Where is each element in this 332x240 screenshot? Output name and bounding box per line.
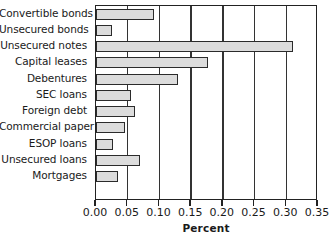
category-label: Unsecured bonds <box>0 24 87 35</box>
gridline <box>254 6 255 199</box>
bar <box>96 122 125 133</box>
category-label: Capital leases <box>0 56 87 67</box>
bar <box>96 57 208 68</box>
bar <box>96 171 118 182</box>
x-axis-tick-labels: 0.000.050.100.150.200.250.300.35 <box>0 206 332 222</box>
bar <box>96 106 135 117</box>
bar <box>96 25 112 36</box>
bar <box>96 90 131 101</box>
category-label: Foreign debt <box>0 105 87 116</box>
category-label: Mortgages <box>0 170 87 181</box>
category-label: Convertible bonds <box>0 8 87 19</box>
plot-area <box>95 5 317 200</box>
bar-chart: Convertible bondsUnsecured bondsUnsecure… <box>0 0 332 240</box>
category-label: Commercial paper <box>0 121 87 132</box>
bar <box>96 139 113 150</box>
gridline <box>190 6 191 199</box>
gridline <box>222 6 223 199</box>
category-label: ESOP loans <box>0 138 87 149</box>
category-axis-labels: Convertible bondsUnsecured bondsUnsecure… <box>0 5 90 200</box>
x-axis-tick-label: 0.35 <box>297 206 332 219</box>
gridline <box>286 6 287 199</box>
category-label: Debentures <box>0 73 87 84</box>
category-label: SEC loans <box>0 89 87 100</box>
gridline <box>159 6 160 199</box>
bar <box>96 155 140 166</box>
gridline <box>127 6 128 199</box>
category-label: Unsecured loans <box>0 154 87 165</box>
bar <box>96 74 178 85</box>
bar <box>96 9 154 20</box>
bar <box>96 41 293 52</box>
category-label: Unsecured notes <box>0 40 87 51</box>
x-axis-title: Percent <box>95 222 317 234</box>
